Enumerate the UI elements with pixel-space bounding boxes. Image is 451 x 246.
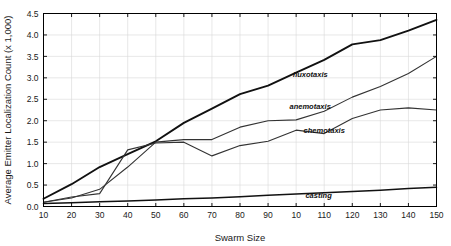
series-label-anemotaxis: anemotaxis xyxy=(290,102,331,111)
series-label-casting: casting xyxy=(305,191,332,200)
x-tick-label: 50 xyxy=(151,210,161,220)
y-tick-label: 0.0 xyxy=(27,202,39,212)
y-tick-label: 2.5 xyxy=(27,94,39,104)
x-tick-label: 140 xyxy=(401,210,415,220)
y-tick-label: 4.0 xyxy=(27,30,39,40)
y-tick-label: 3.5 xyxy=(27,52,39,62)
x-tick-label: 10 xyxy=(291,210,301,220)
x-tick-label: 80 xyxy=(235,210,245,220)
series-label-fluxotaxis: fluxotaxis xyxy=(293,70,328,79)
x-tick-label: 20 xyxy=(67,210,77,220)
y-axis-title: Average Emitter Localization Count (x 1,… xyxy=(2,16,13,205)
x-tick-label: 120 xyxy=(345,210,359,220)
x-tick-label: 150 xyxy=(429,210,443,220)
y-tick-label: 3.0 xyxy=(27,73,39,83)
series-label-chemotaxis: chemotaxis xyxy=(304,126,345,135)
x-tick-label: 110 xyxy=(317,210,331,220)
line-chart-plot: 10203040506070809010110120130140150 0.00… xyxy=(0,0,451,246)
x-tick-label: 90 xyxy=(263,210,273,220)
y-tick-label: 1.5 xyxy=(27,137,39,147)
x-tick-label: 60 xyxy=(179,210,189,220)
x-axis-title: Swarm Size xyxy=(215,232,266,243)
chart-figure: 10203040506070809010110120130140150 0.00… xyxy=(0,0,451,246)
y-tick-label: 0.5 xyxy=(27,180,39,190)
x-tick-label: 30 xyxy=(95,210,105,220)
x-tick-label: 70 xyxy=(207,210,217,220)
x-tick-label: 130 xyxy=(373,210,387,220)
x-tick-label: 10 xyxy=(39,210,49,220)
x-tick-label: 40 xyxy=(123,210,133,220)
y-tick-label: 2.0 xyxy=(27,116,39,126)
y-tick-label: 1.0 xyxy=(27,159,39,169)
y-tick-label: 4.5 xyxy=(27,9,39,19)
